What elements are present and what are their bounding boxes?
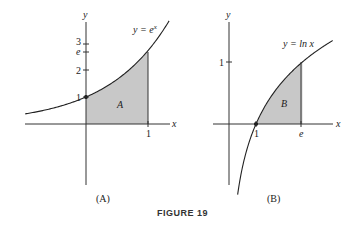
figure-canvas: 1 2 e 3 1 x y y = ex A (A) 1 1 e x y y =… (0, 0, 355, 229)
y-tick-label-e: e (76, 46, 81, 57)
panel-b: 1 1 e x y y = ln x B (B) (213, 9, 341, 205)
region-label-a: A (116, 99, 124, 110)
x-axis-label-b: x (335, 118, 341, 129)
curve-label-ln: y = ln x (282, 38, 314, 49)
y-tick-label-2: 2 (76, 65, 81, 76)
y-tick-label-3: 3 (76, 36, 81, 47)
panel-sublabel-b: (B) (267, 193, 280, 205)
panel-sublabel-a: (A) (96, 193, 110, 205)
x-tick-label-1: 1 (146, 128, 151, 139)
y-tick-label-1: 1 (76, 92, 81, 103)
region-label-b: B (281, 98, 287, 109)
y-tick-label-1-b: 1 (219, 57, 224, 68)
figure-caption: FIGURE 19 (157, 208, 208, 218)
x-axis-label-a: x (171, 118, 177, 129)
region-a-shade (86, 51, 148, 124)
region-b-shade (256, 62, 302, 124)
x-tick-label-e-b: e (299, 128, 304, 139)
curve-label-exp: y = ex (132, 23, 158, 35)
panel-a: 1 2 e 3 1 x y y = ex A (A) (25, 9, 177, 205)
x-tick-label-1-b: 1 (254, 128, 259, 139)
y-axis-label-a: y (82, 9, 88, 20)
y-axis-label-b: y (225, 9, 231, 20)
